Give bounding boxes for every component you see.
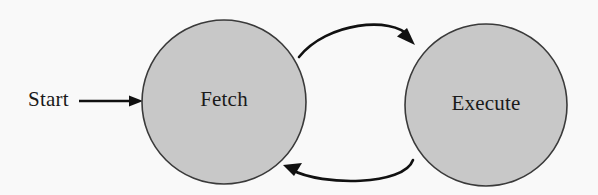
state-diagram-canvas: Fetch Execute Start bbox=[0, 0, 598, 195]
state-diagram: Fetch Execute Start bbox=[0, 0, 598, 195]
execute-label: Execute bbox=[451, 91, 520, 115]
state-node-execute[interactable]: Execute bbox=[405, 24, 567, 186]
start-label: Start bbox=[28, 87, 69, 111]
state-node-fetch[interactable]: Fetch bbox=[142, 20, 306, 184]
fetch-label: Fetch bbox=[200, 87, 248, 111]
